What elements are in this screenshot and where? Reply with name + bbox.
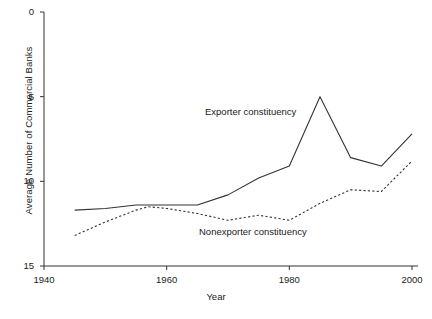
x-tick-marks xyxy=(44,266,412,270)
x-tick-label-1940: 1940 xyxy=(24,274,64,285)
y-tick-label-0: 0 xyxy=(4,6,34,17)
y-tick-label-5: 5 xyxy=(4,91,34,102)
series-label-exporter: Exporter constituency xyxy=(205,106,296,117)
x-tick-label-2000: 2000 xyxy=(392,274,432,285)
x-tick-label-1960: 1960 xyxy=(147,274,187,285)
data-series-group xyxy=(75,97,412,236)
chart-figure: Average Number of Commercial Banks Year … xyxy=(0,0,432,319)
chart-canvas xyxy=(0,0,432,319)
y-axis-title: Average Number of Commercial Banks xyxy=(23,11,34,251)
y-tick-label-10: 10 xyxy=(4,175,34,186)
y-tick-marks xyxy=(40,12,44,266)
series-line-nonexporter-constituency xyxy=(75,161,412,236)
x-tick-label-1980: 1980 xyxy=(269,274,309,285)
y-tick-label-15: 15 xyxy=(4,260,34,271)
x-axis-title: Year xyxy=(0,291,432,302)
series-label-nonexporter: Nonexporter constituency xyxy=(199,226,307,237)
